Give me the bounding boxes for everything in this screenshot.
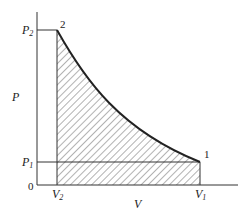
point-2-label: 2 [60, 18, 66, 30]
p1-tick-label: P1 [21, 155, 33, 170]
v1-tick-label: V1 [195, 187, 206, 202]
origin-label: 0 [28, 180, 34, 192]
pv-diagram: 2 1 P2 P1 P 0 V2 V1 V [0, 0, 244, 223]
v2-tick-label: V2 [52, 187, 63, 202]
x-axis-label: V [134, 197, 143, 211]
point-1-label: 1 [204, 148, 210, 160]
p2-tick-label: P2 [21, 23, 33, 38]
y-axis-label: P [11, 90, 20, 104]
